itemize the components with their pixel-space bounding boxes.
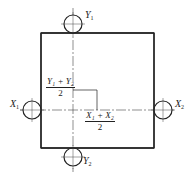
label-y2-sub: 2	[89, 161, 92, 167]
drawing	[0, 0, 192, 182]
formula-x-denominator: 2	[85, 122, 115, 132]
label-x1-sub: 1	[16, 104, 19, 110]
label-x2: X2	[175, 99, 184, 110]
label-x2-sub: 2	[181, 104, 184, 110]
label-y2: Y2	[83, 156, 92, 167]
diagram-canvas: Y1 Y2 X1 X2 Y₁ + Y₂ 2 X₁ + X₂ 2	[0, 0, 192, 182]
formula-y-denominator: 2	[46, 88, 75, 98]
label-x1: X1	[10, 99, 19, 110]
formula-y-numerator: Y₁ + Y₂	[46, 77, 75, 88]
formula-y-center: Y₁ + Y₂ 2	[46, 77, 75, 98]
label-y1-sub: 1	[91, 15, 94, 21]
formula-x-center: X₁ + X₂ 2	[85, 111, 115, 132]
midpoint-bracket	[73, 90, 97, 110]
label-y1: Y1	[85, 10, 94, 21]
formula-x-numerator: X₁ + X₂	[85, 111, 115, 122]
